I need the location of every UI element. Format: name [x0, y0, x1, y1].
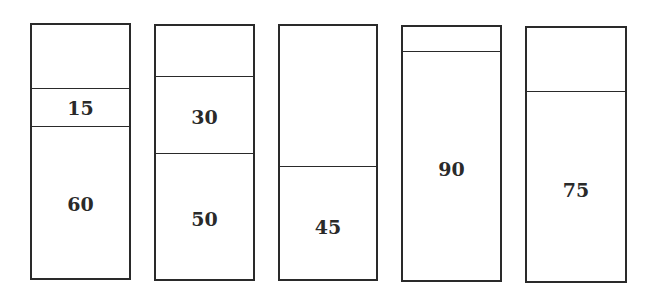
segment-label: 60 — [32, 195, 129, 214]
segment-label: 15 — [32, 99, 129, 118]
segment-label: 75 — [527, 181, 625, 200]
segment-label: 90 — [403, 160, 500, 179]
column-5: 75 — [525, 26, 627, 283]
column-1: 15 60 — [30, 23, 131, 280]
column-3: 45 — [278, 24, 378, 281]
column-4: 90 — [401, 25, 502, 282]
segment-label: 45 — [280, 218, 376, 237]
segment-label: 50 — [156, 210, 253, 229]
segment-label: 30 — [156, 108, 253, 127]
column-2: 30 50 — [154, 24, 255, 281]
